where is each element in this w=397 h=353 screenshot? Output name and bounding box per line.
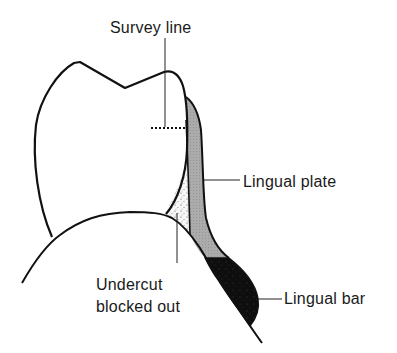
lingual-bar-label: Lingual bar [284,289,365,309]
undercut-label: Undercut blocked out [96,274,180,318]
tooth-outline [35,62,188,237]
lingual-plate-region [186,97,229,258]
undercut-label-line1: Undercut [96,274,180,296]
survey-line-label: Survey line [110,18,191,38]
lingual-plate-label: Lingual plate [243,172,336,192]
undercut-label-line2: blocked out [96,296,180,318]
